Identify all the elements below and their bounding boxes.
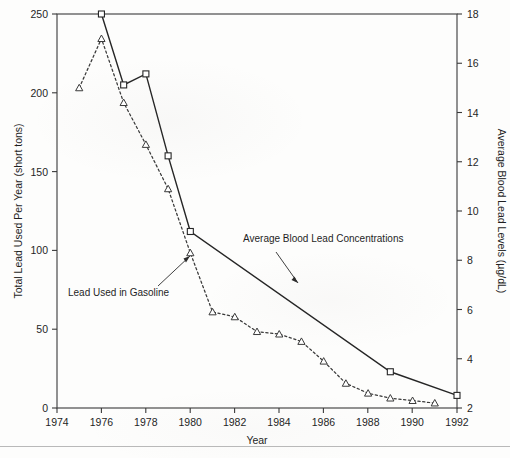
series-layer <box>76 11 460 406</box>
series-line <box>79 39 435 403</box>
data-point-triangle <box>165 185 172 191</box>
annotation-label-lead-gasoline: Lead Used in Gasoline <box>68 287 170 298</box>
x-axis: 1974 1976 1978 1980 1982 1984 1986 1988 … <box>45 408 469 446</box>
y-axis-right-title: Average Blood Lead Levels (µg/dL) <box>496 129 508 294</box>
x-tick-label-1974: 1974 <box>45 416 69 428</box>
y2-tick-label-4: 4 <box>467 353 473 365</box>
y2-tick-label-6: 6 <box>467 304 473 316</box>
y2-tick-label-10: 10 <box>467 205 479 217</box>
x-tick-label-1988: 1988 <box>356 416 380 428</box>
data-point-square <box>187 228 193 234</box>
page-bottom-rule <box>0 446 510 447</box>
y-axis-left-title: Total Lead Used Per Year (short tons) <box>12 123 24 298</box>
y-axis-left-ticks <box>52 14 57 408</box>
series-blood-lead <box>76 35 439 406</box>
data-point-square <box>387 369 393 375</box>
y2-tick-label-8: 8 <box>467 254 473 266</box>
y2-tick-label-16: 16 <box>467 57 479 69</box>
figure-page: 250 200 150 100 50 0 Total Lead Used Per… <box>0 0 510 458</box>
data-point-square <box>165 153 171 159</box>
x-tick-label-1976: 1976 <box>90 416 114 428</box>
annotation-label-blood-lead: Average Blood Lead Concentrations <box>243 233 403 244</box>
data-point-triangle <box>253 328 260 334</box>
annotation-blood-lead: Average Blood Lead Concentrations <box>243 233 403 283</box>
x-axis-title: Year <box>246 434 268 446</box>
data-point-triangle <box>387 395 394 401</box>
lead-trends-chart: 250 200 150 100 50 0 Total Lead Used Per… <box>0 0 510 446</box>
data-point-square <box>98 11 104 17</box>
x-tick-label-1992: 1992 <box>445 416 469 428</box>
data-point-triangle <box>98 35 105 41</box>
data-point-square <box>143 71 149 77</box>
y-axis-right-ticks <box>457 14 462 408</box>
data-point-triangle <box>365 390 372 396</box>
y-tick-label-50: 50 <box>36 323 48 335</box>
data-point-square <box>454 392 460 398</box>
y-tick-label-250: 250 <box>30 8 48 20</box>
y2-tick-label-14: 14 <box>467 107 479 119</box>
data-point-triangle <box>120 99 127 105</box>
y-tick-label-100: 100 <box>30 244 48 256</box>
y-axis-right: 18 16 14 12 10 8 6 4 2 Average Blood Lea… <box>457 8 508 414</box>
y-tick-label-150: 150 <box>30 166 48 178</box>
y-axis-left: 250 200 150 100 50 0 Total Lead Used Per… <box>12 8 57 414</box>
y-tick-label-0: 0 <box>42 402 48 414</box>
data-point-triangle <box>209 308 216 314</box>
data-point-triangle <box>76 84 83 90</box>
series-lead-gasoline <box>98 11 460 398</box>
y-tick-label-200: 200 <box>30 87 48 99</box>
data-point-triangle <box>142 141 149 147</box>
x-tick-label-1986: 1986 <box>312 416 336 428</box>
data-point-triangle <box>187 249 194 255</box>
y2-tick-label-18: 18 <box>467 8 479 20</box>
y2-tick-label-12: 12 <box>467 156 479 168</box>
annotation-arrowhead-blood <box>292 277 299 284</box>
x-tick-label-1982: 1982 <box>223 416 247 428</box>
data-point-square <box>121 82 127 88</box>
data-point-triangle <box>342 380 349 386</box>
series-line <box>101 14 457 395</box>
y2-tick-label-2: 2 <box>467 402 473 414</box>
x-tick-label-1980: 1980 <box>179 416 203 428</box>
x-tick-label-1990: 1990 <box>401 416 425 428</box>
x-axis-ticks <box>57 408 457 413</box>
x-tick-label-1978: 1978 <box>134 416 158 428</box>
plot-frame <box>57 14 457 408</box>
x-tick-label-1984: 1984 <box>267 416 291 428</box>
annotation-lead-gasoline: Lead Used in Gasoline <box>68 256 190 298</box>
